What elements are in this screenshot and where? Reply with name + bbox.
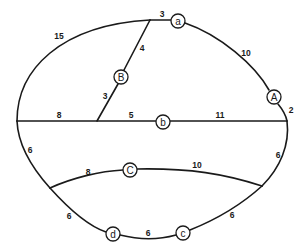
weight-a-to-A: 10 <box>241 48 251 58</box>
weight-b-to-right: 11 <box>216 110 225 120</box>
edge-left-top-arc <box>17 20 150 121</box>
node-C-label: C <box>126 165 133 176</box>
edge-left-lower <box>17 121 50 188</box>
node-c: c <box>176 226 190 240</box>
edge-B-to-junction <box>97 84 118 121</box>
edge-top-to-B <box>124 20 150 70</box>
weight-left-lower: 6 <box>28 145 33 155</box>
node-B: B <box>114 70 128 84</box>
node-A-label: A <box>271 92 278 103</box>
node-b-label: b <box>160 117 166 128</box>
weight-top-left-arc: 15 <box>54 31 64 41</box>
weight-left-to-junction: 8 <box>57 110 62 120</box>
weight-B-to-junction: 3 <box>103 91 108 101</box>
node-C: C <box>123 163 137 177</box>
weight-c-to-right: 6 <box>230 210 235 220</box>
node-a-label: a <box>175 16 181 27</box>
weight-left-to-C: 8 <box>86 167 91 177</box>
weight-junction-to-b: 5 <box>129 110 134 120</box>
weight-right-lower: 6 <box>276 150 281 160</box>
node-c-label: c <box>181 228 186 239</box>
node-d: d <box>106 227 120 241</box>
node-b: b <box>156 115 170 129</box>
node-d-label: d <box>110 229 116 240</box>
edge-A-to-right <box>278 104 287 121</box>
graph-diagram: a A B b C d c 15 3 10 2 4 3 8 5 11 6 6 8… <box>0 0 300 252</box>
node-A: A <box>267 90 281 104</box>
weight-top-to-B: 4 <box>140 43 145 53</box>
node-a: a <box>171 14 185 28</box>
weight-A-to-right: 2 <box>289 105 294 115</box>
weight-top-to-a: 3 <box>160 9 165 19</box>
weight-C-to-right: 10 <box>192 160 202 170</box>
weight-d-to-c: 6 <box>146 228 151 238</box>
edge-a-to-A <box>185 23 269 90</box>
node-B-label: B <box>118 72 125 83</box>
edge-c-to-right <box>190 186 262 230</box>
edge-left-to-d <box>50 188 106 232</box>
weight-left-to-d: 6 <box>67 211 72 221</box>
edge-C-to-right <box>137 169 262 186</box>
